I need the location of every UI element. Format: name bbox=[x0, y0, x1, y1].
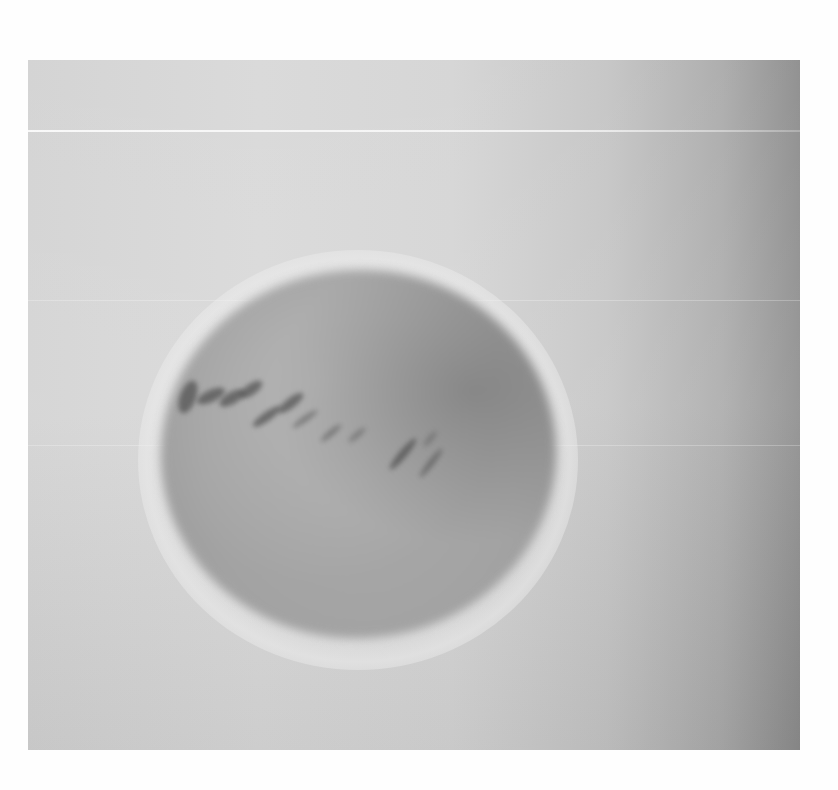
scan-line-artifact bbox=[28, 130, 800, 132]
page bbox=[0, 0, 838, 790]
photograph bbox=[28, 60, 800, 750]
